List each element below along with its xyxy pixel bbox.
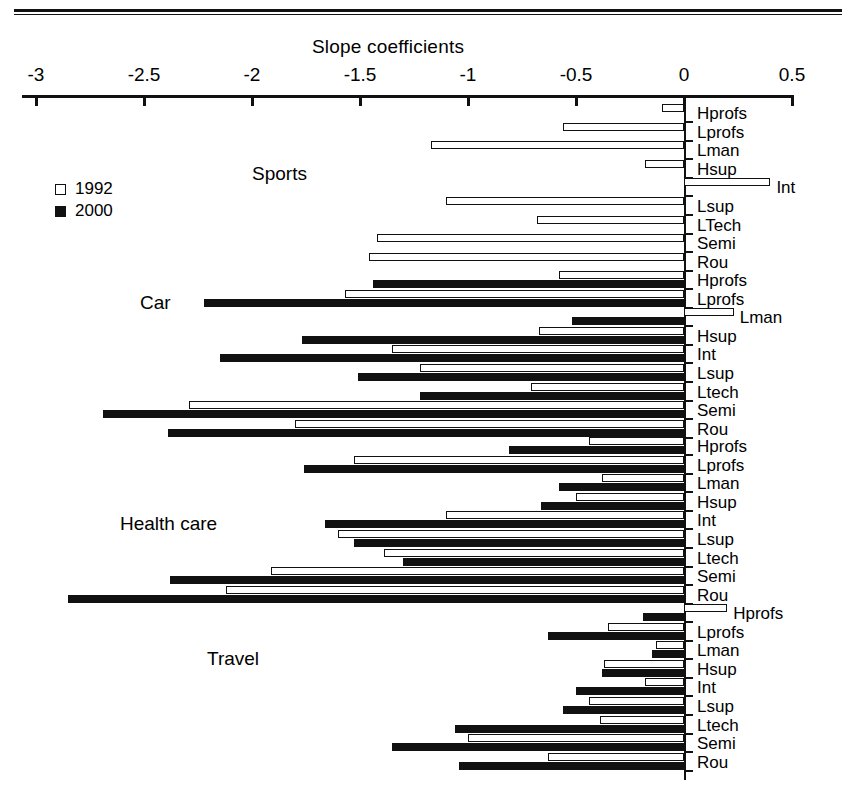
bar-car-lprofs-2000 bbox=[204, 299, 684, 307]
x-tick bbox=[575, 95, 578, 106]
x-tick-label: 0 bbox=[644, 64, 724, 86]
bar-health-care-ltech-2000 bbox=[403, 558, 684, 566]
category-label-semi: Semi bbox=[697, 735, 736, 752]
category-tick bbox=[684, 770, 693, 772]
bar-car-hprofs-1992 bbox=[559, 271, 684, 279]
group-label-health-care: Health care bbox=[120, 513, 217, 535]
category-label-lprofs: Lprofs bbox=[697, 457, 744, 474]
legend-item-2000: 2000 bbox=[55, 200, 113, 222]
category-tick bbox=[684, 695, 693, 697]
bar-travel-rou-2000 bbox=[459, 762, 684, 770]
bar-car-hsup-2000 bbox=[302, 336, 684, 344]
bar-health-care-lman-1992 bbox=[602, 474, 684, 482]
bar-car-lsup-1992 bbox=[420, 364, 684, 372]
bar-health-care-ltech-1992 bbox=[384, 549, 684, 557]
category-label-hprofs: Hprofs bbox=[697, 272, 747, 289]
x-tick-label: -0.5 bbox=[536, 64, 616, 86]
bar-travel-int-2000 bbox=[576, 687, 684, 695]
bar-car-semi-1992 bbox=[189, 401, 684, 409]
category-label-hsup: Hsup bbox=[697, 661, 737, 678]
category-tick bbox=[684, 454, 693, 456]
category-tick bbox=[684, 714, 693, 716]
bar-car-hprofs-2000 bbox=[373, 280, 684, 288]
bar-travel-lman-1992 bbox=[656, 641, 684, 649]
category-label-lman: Lman bbox=[697, 475, 740, 492]
bar-car-ltech-2000 bbox=[420, 392, 684, 400]
category-tick bbox=[684, 491, 693, 493]
bar-health-care-int-1992 bbox=[446, 511, 684, 519]
x-tick-label: -1.5 bbox=[320, 64, 400, 86]
x-tick-label: -2 bbox=[212, 64, 292, 86]
group-label-car: Car bbox=[140, 292, 171, 314]
bar-health-care-lsup-2000 bbox=[354, 539, 684, 547]
category-label-lsup: Lsup bbox=[697, 365, 734, 382]
group-label-sports: Sports bbox=[252, 163, 307, 185]
bar-health-care-hsup-2000 bbox=[541, 502, 684, 510]
bar-travel-semi-1992 bbox=[468, 734, 684, 742]
category-label-int: Int bbox=[697, 512, 716, 529]
bar-sports-hprofs-1992 bbox=[662, 104, 684, 112]
group-label-travel: Travel bbox=[207, 648, 259, 670]
category-tick bbox=[684, 233, 693, 235]
bar-car-lprofs-1992 bbox=[345, 290, 684, 298]
category-tick bbox=[684, 400, 693, 402]
category-tick bbox=[684, 325, 693, 327]
category-tick bbox=[684, 140, 693, 142]
bar-health-care-lsup-1992 bbox=[338, 530, 684, 538]
category-tick bbox=[684, 344, 693, 346]
bar-car-ltech-1992 bbox=[531, 383, 684, 391]
bar-car-hsup-1992 bbox=[539, 327, 684, 335]
bar-health-care-lman-2000 bbox=[559, 483, 684, 491]
legend-label-1992: 1992 bbox=[75, 179, 113, 199]
legend-swatch-2000 bbox=[55, 206, 66, 217]
category-label-rou: Rou bbox=[697, 587, 728, 604]
category-label-lsup: Lsup bbox=[697, 698, 734, 715]
bar-travel-int-1992 bbox=[645, 678, 684, 686]
category-tick bbox=[684, 473, 693, 475]
category-tick bbox=[684, 528, 693, 530]
category-tick bbox=[684, 418, 693, 420]
bar-travel-hsup-1992 bbox=[604, 660, 684, 668]
bar-sports-ltech-1992 bbox=[537, 216, 684, 224]
category-label-lman: Lman bbox=[697, 142, 740, 159]
x-tick-label: -1 bbox=[428, 64, 508, 86]
category-tick bbox=[684, 251, 693, 253]
bar-travel-lsup-1992 bbox=[589, 697, 684, 705]
x-tick-label: 0.5 bbox=[752, 64, 832, 86]
category-tick bbox=[684, 640, 693, 642]
category-tick bbox=[684, 621, 693, 623]
bar-travel-hsup-2000 bbox=[602, 669, 684, 677]
bar-sports-rou-1992 bbox=[369, 253, 684, 261]
category-label-lman: Lman bbox=[697, 642, 740, 659]
bar-travel-ltech-2000 bbox=[455, 725, 684, 733]
category-tick bbox=[684, 437, 693, 439]
bar-car-int-2000 bbox=[220, 354, 684, 362]
category-tick bbox=[684, 288, 693, 290]
x-tick bbox=[359, 95, 362, 106]
bar-car-lman-1992 bbox=[684, 308, 734, 316]
category-label-hsup: Hsup bbox=[697, 328, 737, 345]
bar-car-semi-2000 bbox=[103, 410, 684, 418]
legend-label-2000: 2000 bbox=[75, 201, 113, 221]
bar-health-care-rou-2000 bbox=[68, 595, 684, 603]
category-label-rou: Rou bbox=[697, 254, 728, 271]
bar-health-care-semi-2000 bbox=[170, 576, 684, 584]
bar-health-care-hsup-1992 bbox=[576, 493, 684, 501]
bar-car-rou-2000 bbox=[168, 429, 684, 437]
x-tick bbox=[251, 95, 254, 106]
bar-sports-semi-1992 bbox=[377, 234, 684, 242]
category-label-ltech: LTech bbox=[697, 217, 741, 234]
bar-health-care-lprofs-2000 bbox=[304, 465, 684, 473]
bar-travel-ltech-1992 bbox=[600, 716, 684, 724]
bar-travel-lman-2000 bbox=[652, 650, 684, 658]
category-tick bbox=[684, 751, 693, 753]
category-label-semi: Semi bbox=[697, 568, 736, 585]
bar-health-care-hprofs-2000 bbox=[509, 446, 684, 454]
category-label-lsup: Lsup bbox=[697, 198, 734, 215]
bar-car-rou-1992 bbox=[295, 420, 684, 428]
category-tick bbox=[684, 658, 693, 660]
bar-travel-lprofs-2000 bbox=[548, 632, 684, 640]
bar-sports-int-1992 bbox=[684, 178, 770, 186]
x-tick-label: -2.5 bbox=[104, 64, 184, 86]
category-label-int: Int bbox=[776, 179, 795, 196]
